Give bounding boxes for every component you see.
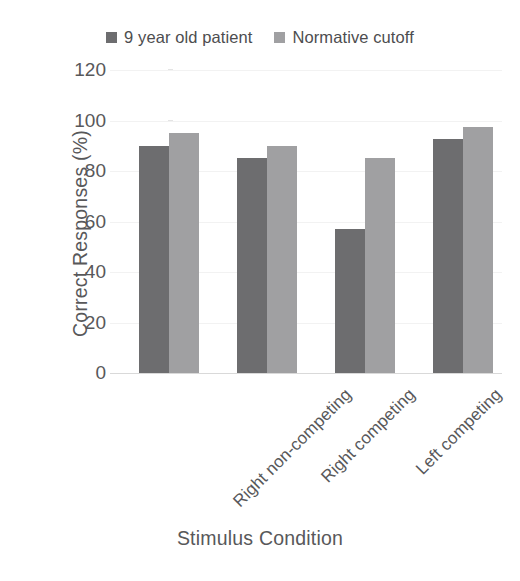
bar [237, 158, 267, 373]
bar [267, 146, 297, 373]
bar-group [139, 70, 199, 373]
bar [463, 127, 493, 373]
y-axis-tick-label: 60 [60, 211, 106, 233]
y-axis-tick-label: 120 [60, 59, 106, 81]
bar-group [335, 70, 395, 373]
x-axis-category-labels: Right non-competingRight competingLeft c… [0, 373, 520, 518]
legend-label-1: Normative cutoff [292, 28, 413, 47]
y-axis-tick-label: 80 [60, 160, 106, 182]
bar [365, 158, 395, 373]
legend-entry-0: 9 year old patient [106, 28, 252, 47]
legend-swatch-icon-0 [106, 32, 117, 43]
bar-chart: 9 year old patient Normative cutoff Corr… [0, 0, 520, 581]
x-axis-category-label: Left competing [412, 385, 506, 479]
bar-group [237, 70, 297, 373]
bar [433, 139, 463, 373]
legend-swatch-icon-1 [274, 32, 285, 43]
plot-area [110, 70, 502, 373]
y-axis-tick-label: 40 [60, 261, 106, 283]
bar [139, 146, 169, 373]
bar [335, 229, 365, 373]
y-axis-tick-label: 100 [60, 110, 106, 132]
y-axis-tick-label: 20 [60, 312, 106, 334]
bar-group [433, 70, 493, 373]
legend-entry-1: Normative cutoff [274, 28, 413, 47]
bar [169, 133, 199, 373]
x-axis-category-label: Right non-competing [230, 385, 356, 511]
x-axis-title: Stimulus Condition [0, 527, 520, 550]
legend-label-0: 9 year old patient [124, 28, 252, 47]
